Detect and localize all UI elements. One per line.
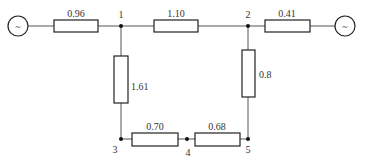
branch-4-5: 0.68 <box>195 121 240 146</box>
ac-source-icon: ~ <box>342 21 348 32</box>
source-right: ~ <box>335 16 355 36</box>
branch-value: 1.10 <box>167 8 185 19</box>
node-5: 5 <box>246 137 251 155</box>
branch-value: 0.8 <box>259 69 272 80</box>
circuit-diagram: ~ ~ 0.96 1.10 0.41 1.61 0.8 0.70 0.68 1 … <box>0 0 366 166</box>
node-3: 3 <box>113 137 124 155</box>
branch-3-4: 0.70 <box>132 121 178 146</box>
branch-value: 1.61 <box>131 81 149 92</box>
branch-1-3: 1.61 <box>114 56 149 103</box>
node-2: 2 <box>246 9 251 28</box>
node-4: 4 <box>185 137 191 158</box>
node-label: 4 <box>186 147 191 158</box>
branch-value: 0.96 <box>67 8 85 19</box>
branch-1-2: 1.10 <box>154 8 198 32</box>
node-1: 1 <box>119 9 124 28</box>
branch-src-left-1: 0.96 <box>54 8 98 32</box>
node-label: 3 <box>113 144 118 155</box>
node-label: 1 <box>119 9 124 20</box>
branch-2-5: 0.8 <box>242 50 272 97</box>
branch-value: 0.41 <box>278 8 296 19</box>
node-label: 5 <box>246 144 251 155</box>
branch-value: 0.68 <box>208 121 226 132</box>
source-left: ~ <box>8 16 28 36</box>
branch-value: 0.70 <box>146 121 164 132</box>
wires <box>28 26 335 139</box>
branch-2-src-right: 0.41 <box>265 8 310 32</box>
ac-source-icon: ~ <box>15 21 21 32</box>
node-label: 2 <box>246 9 251 20</box>
